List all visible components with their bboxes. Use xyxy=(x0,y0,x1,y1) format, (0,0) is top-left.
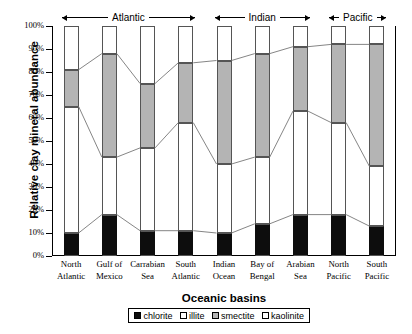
bar-segment-chlorite[interactable] xyxy=(102,215,117,256)
bar-segment-illite[interactable] xyxy=(64,107,79,234)
bar-slot xyxy=(217,26,232,256)
x-axis-category-labels: NorthAtlanticGulf ofMexicoCarrabianSeaSo… xyxy=(52,259,396,293)
bracket-arrow-left xyxy=(62,17,108,18)
bar-segment-chlorite[interactable] xyxy=(369,226,384,256)
bar-segment-illite[interactable] xyxy=(102,157,117,215)
x-axis-label-line: South xyxy=(354,259,400,271)
x-axis-label: SouthPacific xyxy=(354,259,400,282)
bar-segment-kaolinite[interactable] xyxy=(255,26,270,54)
clay-mineral-stacked-bar-chart: Relative clay mineral abundance 100%90%8… xyxy=(0,0,412,334)
bar-segment-kaolinite[interactable] xyxy=(369,26,384,44)
bar-segment-kaolinite[interactable] xyxy=(140,26,155,84)
bar-segment-smectite[interactable] xyxy=(255,54,270,158)
region-bracket-pacific: Pacific xyxy=(329,9,386,25)
y-axis-tick-label: 60% xyxy=(4,113,44,122)
bar-slot xyxy=(178,26,193,256)
bar-slot xyxy=(255,26,270,256)
bar-segment-kaolinite[interactable] xyxy=(217,26,232,61)
x-axis-label-line: Pacific xyxy=(354,271,400,283)
x-axis-title: Oceanic basins xyxy=(52,292,396,304)
bracket-arrow-left xyxy=(329,17,339,18)
region-label: Indian xyxy=(245,12,280,23)
stacked-bar[interactable] xyxy=(331,26,346,256)
bar-segment-smectite[interactable] xyxy=(331,44,346,122)
bar-segment-smectite[interactable] xyxy=(217,61,232,165)
bar-slot xyxy=(369,26,384,256)
chart-legend: chloriteillitesmectitekaolinite xyxy=(128,308,310,323)
bar-segment-chlorite[interactable] xyxy=(255,224,270,256)
y-axis-tick-label: 80% xyxy=(4,67,44,76)
legend-swatch-kaolinite xyxy=(262,312,269,319)
stacked-bar[interactable] xyxy=(217,26,232,256)
stacked-bar[interactable] xyxy=(140,26,155,256)
bracket-arrow-right xyxy=(280,17,310,18)
y-axis-tick xyxy=(46,256,52,257)
bar-segment-kaolinite[interactable] xyxy=(64,26,79,70)
y-axis-tick-label: 40% xyxy=(4,159,44,168)
bar-slot xyxy=(102,26,117,256)
y-axis-tick-label: 50% xyxy=(4,136,44,145)
stacked-bar[interactable] xyxy=(178,26,193,256)
legend-item-smectite[interactable]: smectite xyxy=(212,311,255,321)
legend-label: chlorite xyxy=(144,311,173,321)
legend-swatch-chlorite xyxy=(134,312,141,319)
region-bracket-atlantic: Atlantic xyxy=(62,9,196,25)
y-axis-tick-label: 10% xyxy=(4,228,44,237)
bar-segment-illite[interactable] xyxy=(331,123,346,215)
bar-segment-illite[interactable] xyxy=(178,123,193,231)
bar-segment-smectite[interactable] xyxy=(140,84,155,148)
bar-segment-illite[interactable] xyxy=(255,157,270,224)
y-axis-tick-label: 70% xyxy=(4,90,44,99)
bracket-arrow-right xyxy=(377,17,387,18)
y-axis-title: Relative clay mineral abundance xyxy=(28,30,40,230)
bar-segment-smectite[interactable] xyxy=(293,47,308,111)
bar-segment-chlorite[interactable] xyxy=(64,233,79,256)
bar-segment-chlorite[interactable] xyxy=(293,215,308,256)
bar-segment-smectite[interactable] xyxy=(102,54,117,158)
stacked-bar[interactable] xyxy=(293,26,308,256)
y-axis-tick-label: 0% xyxy=(4,251,44,260)
bar-segment-illite[interactable] xyxy=(217,164,232,233)
y-axis-tick-label: 20% xyxy=(4,205,44,214)
bar-segment-chlorite[interactable] xyxy=(178,231,193,256)
region-label: Pacific xyxy=(339,12,376,23)
bar-segment-chlorite[interactable] xyxy=(217,233,232,256)
bar-slot xyxy=(140,26,155,256)
bar-segment-chlorite[interactable] xyxy=(140,231,155,256)
stacked-bar[interactable] xyxy=(64,26,79,256)
legend-swatch-smectite xyxy=(212,312,219,319)
bar-segment-kaolinite[interactable] xyxy=(178,26,193,63)
bar-segment-kaolinite[interactable] xyxy=(331,26,346,44)
y-axis-tick-label: 90% xyxy=(4,44,44,53)
bar-segment-illite[interactable] xyxy=(140,148,155,231)
bar-slot xyxy=(331,26,346,256)
bar-segment-illite[interactable] xyxy=(293,111,308,215)
stacked-bar[interactable] xyxy=(102,26,117,256)
region-label: Atlantic xyxy=(108,12,149,23)
legend-item-kaolinite[interactable]: kaolinite xyxy=(262,311,305,321)
bar-slot xyxy=(293,26,308,256)
region-bracket-indian: Indian xyxy=(215,9,310,25)
legend-label: kaolinite xyxy=(271,311,304,321)
stacked-bar[interactable] xyxy=(255,26,270,256)
y-axis-tick-label: 100% xyxy=(4,21,44,30)
legend-swatch-illite xyxy=(180,312,187,319)
legend-label: smectite xyxy=(221,311,255,321)
legend-item-chlorite[interactable]: chlorite xyxy=(134,311,173,321)
bar-segment-smectite[interactable] xyxy=(369,44,384,166)
stacked-bar[interactable] xyxy=(369,26,384,256)
bar-segment-smectite[interactable] xyxy=(64,70,79,107)
bar-slot xyxy=(64,26,79,256)
bar-segment-kaolinite[interactable] xyxy=(293,26,308,47)
bar-segment-illite[interactable] xyxy=(369,166,384,226)
bracket-arrow-right xyxy=(149,17,195,18)
bar-segment-chlorite[interactable] xyxy=(331,215,346,256)
bar-series-container xyxy=(52,26,396,256)
bar-segment-smectite[interactable] xyxy=(178,63,193,123)
legend-label: illite xyxy=(189,311,205,321)
y-axis-tick-label: 30% xyxy=(4,182,44,191)
bar-segment-kaolinite[interactable] xyxy=(102,26,117,54)
legend-item-illite[interactable]: illite xyxy=(180,311,205,321)
bracket-arrow-left xyxy=(215,17,245,18)
